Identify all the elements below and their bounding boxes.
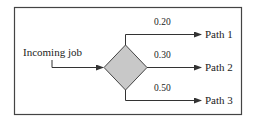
- branch-probability-3: 0.50: [154, 83, 171, 93]
- incoming-job-label: Incoming job: [23, 46, 82, 58]
- flow-diagram: Incoming job 0.20 Path 1 0.30 Path 2 0.5…: [0, 0, 253, 119]
- branch-target-path-1: Path 1: [205, 28, 233, 40]
- branch-probability-2: 0.30: [154, 50, 171, 60]
- branch-target-path-3: Path 3: [205, 94, 233, 106]
- branch-target-path-2: Path 2: [205, 61, 233, 73]
- branch-arrow-path-1: [126, 35, 202, 46]
- incoming-arrow: [52, 60, 103, 68]
- branch-probability-1: 0.20: [154, 17, 171, 27]
- decision-node-diamond: [104, 45, 147, 90]
